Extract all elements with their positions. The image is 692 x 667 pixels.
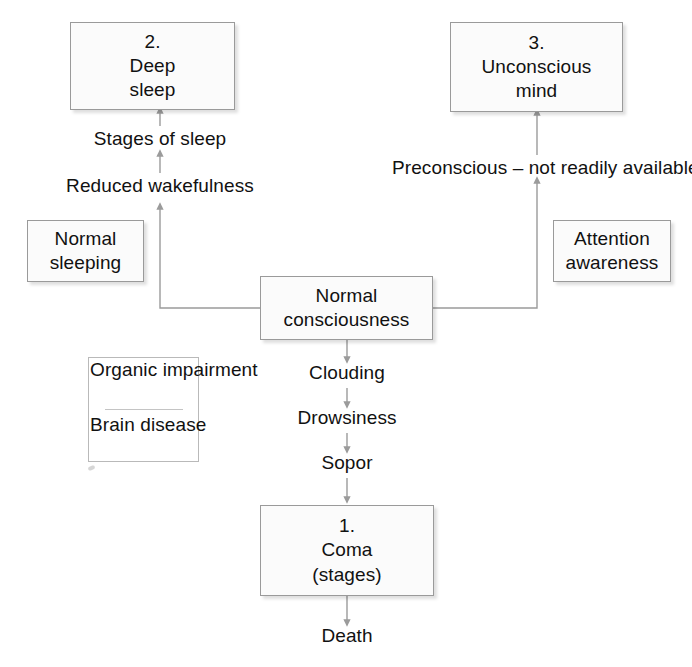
node-deep-sleep[interactable]: 2. Deep sleep: [70, 22, 235, 110]
node-normal-consciousness-line-1: Normal: [316, 284, 378, 308]
bracket-divider: [105, 409, 183, 410]
bracket-top-line-2: impairment: [163, 359, 258, 380]
label-preconscious: Preconscious – not readily available: [392, 157, 682, 180]
node-coma-line-3: (stages): [312, 563, 381, 587]
bracket-organic-impairment-bottom: Brain disease: [90, 413, 198, 436]
node-deep-sleep-line-2: Deep: [130, 54, 176, 78]
diagram-canvas: 2. Deep sleep 3. Unconscious mind Normal…: [0, 0, 692, 667]
label-reduced-wakefulness: Reduced wakefulness: [40, 175, 280, 198]
edge-consciousness-to-deep-sleep: [160, 206, 260, 308]
node-attention-awareness[interactable]: Attention awareness: [553, 220, 671, 282]
bracket-bottom-line-1: Brain: [90, 414, 135, 435]
bracket-organic-impairment-top: Organic impairment: [90, 358, 198, 381]
bracket-bottom-line-2: disease: [140, 414, 206, 435]
node-unconscious-mind-line-1: 3.: [528, 31, 544, 55]
bracket-top-line-1: Organic: [90, 359, 157, 380]
label-sopor: Sopor: [267, 452, 427, 475]
label-death: Death: [267, 625, 427, 648]
node-coma-line-2: Coma: [321, 538, 372, 562]
label-drowsiness: Drowsiness: [267, 407, 427, 430]
node-attention-awareness-line-2: awareness: [566, 251, 659, 275]
node-normal-consciousness[interactable]: Normal consciousness: [260, 276, 433, 340]
node-coma[interactable]: 1. Coma (stages): [260, 505, 434, 596]
label-stages-of-sleep: Stages of sleep: [60, 128, 260, 151]
node-normal-consciousness-line-2: consciousness: [284, 308, 410, 332]
node-unconscious-mind-line-2: Unconscious: [482, 55, 592, 79]
node-normal-sleeping[interactable]: Normal sleeping: [27, 220, 144, 282]
node-deep-sleep-line-3: sleep: [130, 78, 176, 102]
scan-artifact: [88, 465, 96, 471]
node-normal-sleeping-line-2: sleeping: [50, 251, 122, 275]
node-normal-sleeping-line-1: Normal: [55, 227, 117, 251]
node-coma-line-1: 1.: [339, 514, 355, 538]
label-clouding: Clouding: [267, 362, 427, 385]
node-unconscious-mind[interactable]: 3. Unconscious mind: [450, 22, 623, 112]
node-attention-awareness-line-1: Attention: [574, 227, 650, 251]
node-unconscious-mind-line-3: mind: [516, 79, 558, 103]
edge-consciousness-to-unconscious: [433, 180, 537, 308]
node-deep-sleep-line-1: 2.: [144, 30, 160, 54]
